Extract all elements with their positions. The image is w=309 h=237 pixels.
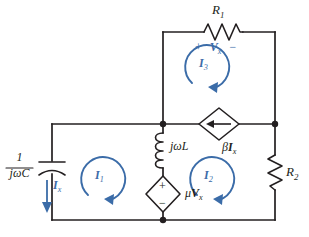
dependent-voltage-source-label: μVx [185, 186, 203, 202]
circuit-diagram [0, 0, 309, 237]
resistor-r2-symbol [268, 155, 282, 190]
inductor-label: jωL [170, 139, 188, 154]
i2-subscript: 2 [209, 175, 213, 184]
vsource-polarity-minus: − [159, 196, 166, 211]
ix-arrow-head [42, 202, 52, 213]
dependent-current-source-symbol [199, 108, 239, 140]
mesh-i2-arrowhead [213, 194, 223, 205]
node-dot-right [272, 121, 278, 127]
i1-subscript: 1 [100, 175, 104, 184]
dependent-current-source-label: βIx [222, 140, 236, 156]
voltage-vx-label: + Vx − [195, 40, 236, 56]
mesh-i1-arrowhead [104, 194, 114, 205]
i3-subscript: 3 [204, 63, 208, 72]
current-ix-label: Ix [53, 178, 61, 194]
resistor-r2-zigzag [268, 155, 282, 190]
mu-subscript: x [199, 193, 203, 202]
vx-plus-sign: + [195, 40, 202, 54]
vsource-polarity-plus: + [159, 179, 166, 194]
capacitor-label: 1 jωC [3, 151, 36, 181]
resistor-r1-subscript: 1 [220, 10, 224, 20]
resistor-r2-letter: R [286, 164, 294, 179]
resistor-r2-label: R2 [286, 164, 298, 182]
vx-subscript: x [218, 47, 222, 56]
capacitor-numerator: 1 [3, 151, 36, 165]
vsource-minus-sign: − [159, 196, 166, 210]
current-ix-arrow [42, 180, 52, 213]
node-dot-center-bottom [160, 217, 166, 223]
beta-subscript: x [233, 147, 237, 156]
mesh-i3-arrowhead [208, 82, 218, 93]
mesh-current-i1-label: I1 [95, 168, 104, 184]
vx-variable: V [210, 40, 218, 54]
mesh-current-i2-label: I2 [204, 168, 213, 184]
resistor-r2-subscript: 2 [294, 172, 298, 182]
resistor-r1-label: R1 [212, 2, 224, 20]
resistor-r1-zigzag [204, 24, 243, 40]
node-dot-center-top [160, 121, 166, 127]
vx-minus-sign: − [229, 40, 236, 54]
ix-subscript: x [58, 185, 62, 194]
capacitor-symbol [39, 162, 65, 175]
inductor-symbol [156, 133, 164, 168]
capacitor-denominator: jωC [3, 167, 36, 181]
resistor-r1-letter: R [212, 2, 220, 17]
inductor-label-text: jωL [170, 139, 188, 153]
resistor-r1-symbol [204, 24, 243, 40]
inductor-coil [156, 133, 164, 168]
mesh-current-i3-label: I3 [199, 56, 208, 72]
vsource-plus-sign: + [159, 179, 166, 193]
mu-variable: V [191, 186, 199, 200]
